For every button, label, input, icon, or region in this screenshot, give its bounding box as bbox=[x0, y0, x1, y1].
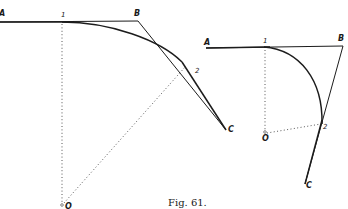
left-tangent-bc bbox=[138, 21, 226, 130]
left-center-point bbox=[61, 204, 64, 207]
right-label-2: 2 bbox=[323, 123, 328, 131]
right-label-1: 1 bbox=[263, 37, 267, 45]
figure-61-diagram: A 1 B 2 C O A 1 B 2 C O Fig. 61. bbox=[0, 0, 348, 209]
left-label-1: 1 bbox=[61, 11, 65, 19]
left-label-c: C bbox=[228, 125, 234, 134]
left-curve-figure: A 1 B 2 C O bbox=[0, 9, 234, 209]
right-straight-2-c bbox=[305, 120, 322, 184]
left-label-2: 2 bbox=[195, 67, 200, 75]
right-curve-figure: A 1 B 2 C O bbox=[203, 34, 344, 190]
left-curve-1-2 bbox=[62, 22, 182, 62]
right-curve-1-2 bbox=[264, 47, 322, 124]
right-label-b: B bbox=[338, 34, 344, 43]
left-label-b: B bbox=[134, 9, 140, 18]
right-label-a: A bbox=[203, 38, 210, 47]
right-center-point bbox=[264, 131, 267, 134]
right-straight-a-1 bbox=[206, 47, 270, 48]
left-radius-o-2 bbox=[64, 66, 186, 203]
figure-caption: Fig. 61. bbox=[168, 197, 207, 208]
left-label-o: O bbox=[65, 202, 72, 209]
left-label-a: A bbox=[0, 9, 5, 18]
right-label-o: O bbox=[262, 134, 269, 143]
right-label-c: C bbox=[306, 181, 312, 190]
left-straight-2-c bbox=[182, 62, 226, 130]
right-radius-o-2 bbox=[267, 124, 321, 133]
